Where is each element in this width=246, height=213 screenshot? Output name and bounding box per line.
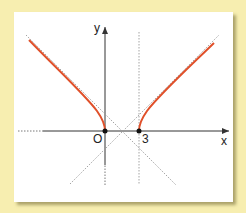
curve-left-branch [29, 40, 105, 131]
function-graph [0, 0, 246, 213]
asymptote-falling [26, 35, 176, 185]
point-3 [137, 129, 142, 134]
tick-label-3: 3 [142, 132, 149, 146]
origin-label: O [93, 132, 102, 146]
curve-right-branch [139, 43, 214, 131]
y-axis-label: y [94, 21, 100, 35]
x-axis-label: x [221, 134, 227, 148]
asymptote-rising [70, 35, 219, 184]
point-origin [103, 129, 108, 134]
